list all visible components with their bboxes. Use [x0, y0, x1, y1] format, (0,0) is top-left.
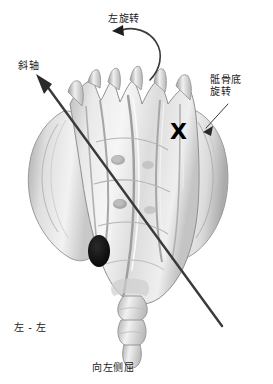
figure-caption: 向左侧屈: [92, 362, 134, 374]
label-oblique-axis: 斜轴: [18, 60, 39, 72]
label-sacral-base-rotation: 骶骨底 旋转: [210, 74, 242, 98]
rotation-arrowhead: [112, 25, 124, 36]
sacral-foramen-marker: [88, 235, 110, 267]
sacral-base-leader-line: [206, 104, 228, 128]
label-sacral-base-line1: 骶骨底: [210, 74, 242, 86]
label-left-left: 左 - 左: [14, 322, 46, 334]
x-marker: X: [170, 121, 187, 143]
label-left-rotation: 左旋转: [108, 13, 140, 25]
sacrum-oblique-axis-figure: 左旋转 斜轴 骶骨底 旋转 左 - 左 向左侧屈 X: [0, 0, 273, 384]
label-sacral-base-line2: 旋转: [210, 86, 242, 98]
